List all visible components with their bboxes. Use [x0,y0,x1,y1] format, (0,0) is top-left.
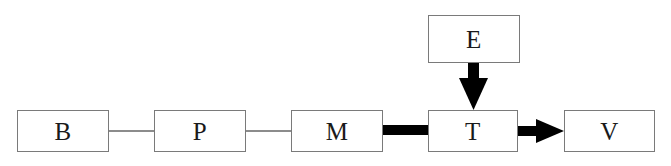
node-box-m[interactable]: M [291,110,383,152]
node-label-b: B [54,119,71,144]
node-label-t: T [465,119,481,144]
node-label-v: V [600,119,619,144]
node-box-t[interactable]: T [428,110,518,152]
node-box-v[interactable]: V [564,110,655,152]
node-box-e[interactable]: E [428,15,520,63]
thick-arrow-e-to-t [459,62,488,110]
thick-link-m-to-t [382,125,429,135]
thick-arrow-t-to-v [518,119,564,143]
node-box-p[interactable]: P [154,110,246,152]
node-label-e: E [466,27,482,52]
node-label-p: P [193,119,207,144]
node-box-b[interactable]: B [17,110,109,152]
node-label-m: M [326,119,349,144]
diagram-canvas: B P M T V E [0,0,671,166]
